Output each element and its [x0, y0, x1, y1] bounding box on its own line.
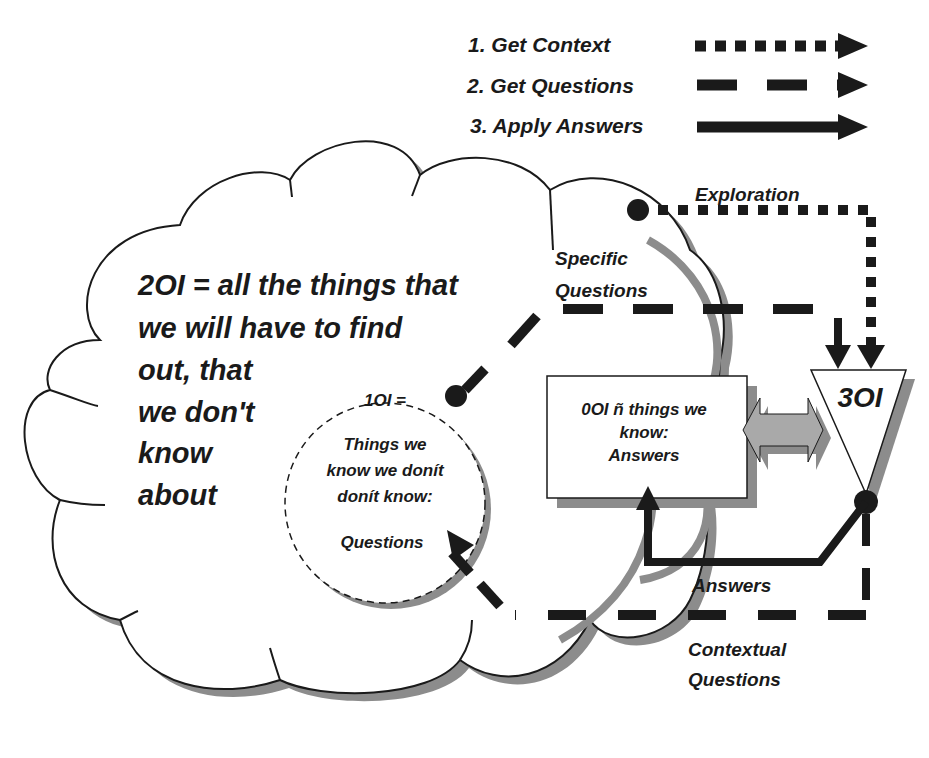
cloud-title-line: out, that	[138, 354, 254, 386]
specific-questions-label: Questions	[555, 280, 648, 301]
box-0oi-line: Answers	[608, 446, 680, 465]
contextual-questions-label: Contextual	[688, 639, 787, 660]
answers-label: Answers	[691, 575, 771, 596]
arrowhead-icon	[857, 345, 885, 369]
circle-1oi-line: Things we	[343, 435, 426, 454]
arrowhead-icon	[838, 114, 868, 140]
box-0oi: 0OI ñ things we know: Answers	[547, 376, 757, 508]
specific-questions-label: Specific	[555, 248, 628, 269]
legend-label-apply-answers: 3. Apply Answers	[470, 114, 644, 137]
triangle-3oi-label: 3OI	[837, 382, 883, 413]
circle-1oi-heading: 1OI =	[364, 391, 406, 410]
legend-label-get-questions: 2. Get Questions	[466, 74, 634, 97]
cloud-title-line: 2OI = all the things that	[137, 269, 459, 301]
cloud-title-line: know	[138, 437, 215, 469]
node-dot-icon	[445, 385, 467, 407]
exploration-label: Exploration	[695, 184, 800, 205]
arrowhead-icon	[838, 33, 868, 59]
cloud-title-line: about	[138, 479, 218, 511]
node-dot-icon	[627, 199, 649, 221]
circle-1oi-line: know we donít	[326, 461, 444, 480]
box-0oi-line: 0OI ñ things we	[581, 400, 707, 419]
cloud-title-line: we don't	[138, 396, 256, 428]
circle-1oi-footer: Questions	[340, 533, 423, 552]
legend-label-get-context: 1. Get Context	[468, 33, 611, 56]
circle-1oi-line: donít know:	[337, 487, 432, 506]
knowledge-levels-diagram: 1. Get Context 2. Get Questions 3. Apply…	[0, 0, 929, 758]
legend: 1. Get Context 2. Get Questions 3. Apply…	[466, 33, 868, 140]
arrowhead-icon	[825, 345, 851, 369]
contextual-questions-label: Questions	[688, 669, 781, 690]
cloud-title-line: we will have to find	[138, 312, 404, 344]
arrowhead-icon	[838, 72, 868, 98]
box-0oi-line: know:	[619, 423, 668, 442]
